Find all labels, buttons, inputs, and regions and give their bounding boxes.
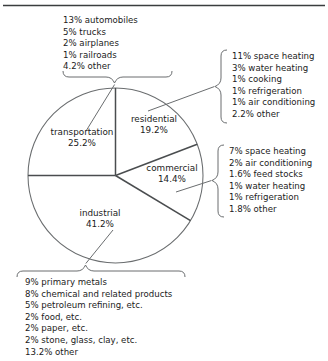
pie-slice-label-industrial: industrial 41.2% (61, 208, 139, 231)
leader-industrial (86, 230, 113, 264)
slice-name: commercial (136, 163, 208, 174)
slice-name: industrial (61, 208, 139, 219)
pie-slice-label-commercial: commercial 14.4% (136, 163, 208, 186)
callout-transportation-breakdown: 13% automobiles 5% trucks 2% airplanes 1… (63, 15, 138, 73)
slice-value: 19.2% (119, 125, 189, 136)
callout-line: 2% airplanes (63, 38, 138, 50)
callout-line: 9% primary metals (25, 277, 172, 289)
callout-line: 1% cooking (232, 74, 315, 86)
callout-line: 2% air conditioning (229, 158, 312, 170)
brace-industrial (17, 265, 185, 277)
slice-value: 14.4% (136, 174, 208, 185)
slice-value: 25.2% (39, 138, 125, 149)
callout-line: 1.6% feed stocks (229, 169, 312, 181)
pie-slice-label-residential: residential 19.2% (119, 114, 189, 137)
callout-line: 8% chemical and related products (25, 289, 172, 301)
callout-line: 1.8% other (229, 204, 312, 216)
callout-line: 2% food, etc. (25, 312, 172, 324)
callout-line: 1% railroads (63, 50, 138, 62)
brace-residential (215, 50, 227, 123)
callout-line: 1% air conditioning (232, 97, 315, 109)
callout-line: 7% space heating (229, 146, 312, 158)
callout-line: 1% refrigeration (232, 86, 315, 98)
callout-industrial-breakdown: 9% primary metals 8% chemical and relate… (25, 277, 172, 358)
callout-line: 11% space heating (232, 51, 315, 63)
brace-commercial (212, 145, 224, 217)
callout-line: 13.2% other (25, 347, 172, 359)
callout-line: 2.2% other (232, 109, 315, 121)
callout-line: 2% stone, glass, clay, etc. (25, 335, 172, 347)
callout-residential-breakdown: 11% space heating 3% water heating 1% co… (232, 51, 315, 121)
callout-line: 1% refrigeration (229, 192, 312, 204)
callout-line: 3% water heating (232, 63, 315, 75)
pie-chart-figure: 13% automobiles 5% trucks 2% airplanes 1… (0, 0, 328, 361)
pie-slice-label-transportation: transportation 25.2% (39, 127, 125, 150)
callout-commercial-breakdown: 7% space heating 2% air conditioning 1.6… (229, 146, 312, 216)
callout-line: 1% water heating (229, 181, 312, 193)
callout-line: 5% petroleum refining, etc. (25, 300, 172, 312)
slice-value: 41.2% (61, 219, 139, 230)
slice-name: residential (119, 114, 189, 125)
callout-line: 13% automobiles (63, 15, 138, 27)
slice-name: transportation (39, 127, 125, 138)
callout-line: 5% trucks (63, 27, 138, 39)
callout-line: 2% paper, etc. (25, 323, 172, 335)
callout-line: 4.2% other (63, 61, 138, 73)
